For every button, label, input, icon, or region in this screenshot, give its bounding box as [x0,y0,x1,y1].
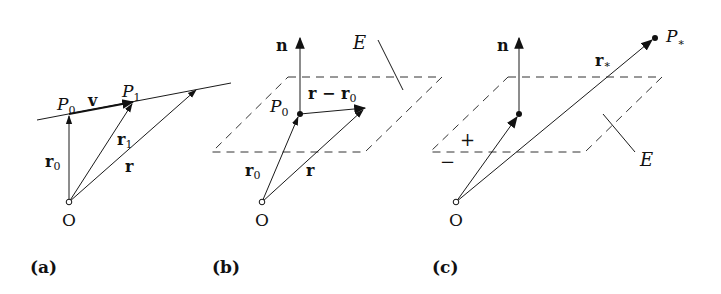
vector-r-arrow [262,110,363,202]
label-r: r [125,157,134,176]
label-origin: O [449,210,463,230]
vector-r-minus-r0-arrow [300,108,365,114]
label-p1: P1 [121,81,140,104]
label-r0: r0 [245,161,260,182]
label-r1: r1 [117,130,132,151]
label-minus-side: − [440,151,455,172]
label-origin: O [62,210,76,230]
label-e: E [639,149,653,170]
plane-e-pointer [603,114,635,152]
label-plus-side: + [460,129,475,150]
caption-b: (b) [212,257,240,277]
vector-geometry-figure: P0 v P1 r0 r1 r O (a) n E P0 r − r0 r0 r… [0,0,721,294]
origin-point [66,199,72,205]
panel-a: P0 v P1 r0 r1 r O (a) [30,81,231,277]
label-origin: O [255,210,269,230]
origin-point [259,199,265,205]
label-r0: r0 [45,152,60,173]
label-r-minus-r0: r − r0 [308,84,356,105]
panel-b: n E P0 r − r0 r0 r O (b) [212,32,442,277]
vector-v-arrow [69,102,133,114]
label-r-star: r∗ [595,51,611,71]
vector-r-star-arrow [456,40,652,202]
label-r: r [306,161,315,180]
point-p-star [652,35,658,41]
label-e: E [352,32,366,53]
caption-c: (c) [432,257,458,277]
plane-e-pointer [378,40,403,90]
label-n: n [276,36,288,55]
point-on-plane [516,111,522,117]
vector-r1-arrow [69,104,132,202]
panel-c: n P∗ r∗ + − E O (c) [430,26,685,277]
label-p0: P0 [56,94,75,117]
label-p0: P0 [269,96,288,119]
label-v: v [87,91,98,110]
origin-point [453,199,459,205]
vector-r0-arrow [262,117,298,202]
point-p0 [297,111,303,117]
caption-a: (a) [30,257,57,277]
label-n: n [497,36,509,55]
label-p-star: P∗ [665,26,685,49]
